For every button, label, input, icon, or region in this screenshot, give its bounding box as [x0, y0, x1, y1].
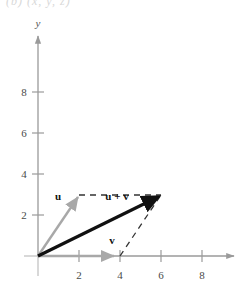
- x-tick-label-2: 2: [76, 269, 82, 281]
- dashed-construction-lines: [79, 195, 161, 256]
- vector-addition-figure: (b) (x, y, z) 2: [0, 0, 249, 286]
- y-tick-label-8: 8: [21, 86, 27, 98]
- y-tick-label-4: 4: [21, 168, 27, 180]
- x-tick-label-6: 6: [158, 269, 164, 281]
- y-tick-label-2: 2: [21, 209, 27, 221]
- vector-plot: 2 4 6 8 2 4 6 8 y: [0, 0, 249, 286]
- y-tick-label-6: 6: [21, 127, 27, 139]
- vector-label-v: v: [109, 234, 115, 246]
- y-axis-tick-labels: 2 4 6 8: [21, 86, 27, 221]
- x-tick-label-8: 8: [199, 269, 205, 281]
- vector-label-u: u: [55, 190, 61, 202]
- x-tick-label-4: 4: [117, 269, 123, 281]
- x-axis-tick-labels: 2 4 6 8: [76, 269, 205, 281]
- vector-label-u-plus-v: u + v: [105, 190, 129, 202]
- axes: [24, 36, 234, 276]
- y-axis-label: y: [35, 17, 41, 29]
